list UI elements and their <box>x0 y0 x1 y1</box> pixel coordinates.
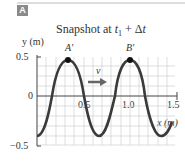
wave-plot <box>0 0 185 167</box>
point-b-marker <box>127 57 133 63</box>
point-a-marker <box>65 57 71 63</box>
velocity-arrow-icon <box>88 78 107 86</box>
wave-curve <box>37 60 172 136</box>
